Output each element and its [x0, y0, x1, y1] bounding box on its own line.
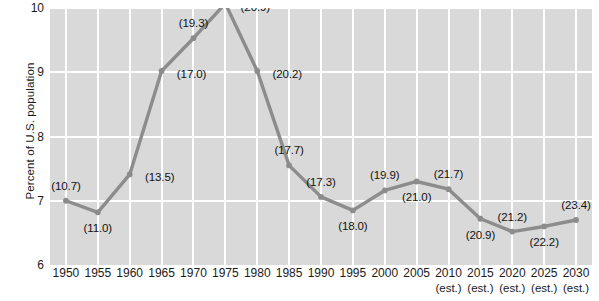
x-axis-tick-label: 1995	[340, 266, 367, 281]
x-axis-tick-year: 2000	[371, 266, 398, 280]
data-point-marker	[541, 224, 547, 230]
x-axis-tick-year: 2015	[467, 266, 494, 280]
data-point-marker	[414, 179, 420, 185]
x-axis-tick-label: 2020(est.)	[499, 266, 526, 296]
data-point-label: (21.0)	[402, 191, 431, 203]
data-point-marker	[159, 68, 165, 74]
data-point-label: (19.3)	[179, 17, 208, 29]
x-axis-tick-estimate-note: (est.)	[499, 281, 526, 296]
x-axis-tick-year: 1970	[180, 266, 207, 280]
x-axis-tick-label: 2030(est.)	[563, 266, 590, 296]
x-axis-tick-label: 1970	[180, 266, 207, 281]
x-axis-tick-year: 2025	[531, 266, 558, 280]
data-point-marker	[478, 216, 484, 222]
data-point-marker	[95, 209, 101, 215]
x-axis-tick-year: 1955	[84, 266, 111, 280]
x-axis-tick-label: 1980	[244, 266, 271, 281]
data-point-marker	[382, 188, 388, 194]
data-point-label: (20.9)	[466, 229, 495, 241]
x-axis-tick-year: 1980	[244, 266, 271, 280]
x-axis-tick-year: 1990	[308, 266, 335, 280]
x-axis-tick-estimate-note: (est.)	[531, 281, 558, 296]
data-point-label: (10.7)	[51, 180, 80, 192]
y-axis-tick-label: 6	[4, 258, 44, 272]
data-point-marker	[509, 229, 515, 235]
x-axis-tick-label: 1975	[212, 266, 239, 281]
x-axis-tick-year: 1960	[116, 266, 143, 280]
data-point-label: (13.5)	[145, 171, 174, 183]
x-axis-tick-year: 2030	[563, 266, 590, 280]
data-point-marker	[446, 186, 452, 192]
data-point-label: (20.2)	[273, 68, 302, 80]
x-axis-tick-estimate-note: (est.)	[435, 281, 462, 296]
data-point-label: (17.3)	[306, 176, 335, 188]
x-axis-tick-year: 1965	[148, 266, 175, 280]
x-axis-tick-year: 2020	[499, 266, 526, 280]
x-axis-tick-label: 1990	[308, 266, 335, 281]
x-axis-tick-year: 1995	[340, 266, 367, 280]
x-axis-tick-year: 1950	[53, 266, 80, 280]
x-axis-tick-labels: 1950195519601965197019751980198519901995…	[50, 266, 592, 301]
data-point-label: (11.0)	[84, 222, 113, 234]
chart-figure: Percent of U.S. population 678910 (10.7)…	[0, 0, 599, 301]
x-axis-tick-estimate-note: (est.)	[563, 281, 590, 296]
data-point-label: (21.7)	[434, 168, 463, 180]
y-axis-tick-label: 10	[4, 1, 44, 15]
y-axis-tick-label: 8	[4, 130, 44, 144]
data-point-label: (22.2)	[529, 236, 558, 248]
x-axis-tick-year: 2010	[435, 266, 462, 280]
data-point-label: (19.9)	[370, 169, 399, 181]
x-axis-tick-label: 2025(est.)	[531, 266, 558, 296]
data-point-label: (17.7)	[274, 144, 303, 156]
data-point-marker	[318, 194, 324, 200]
x-axis-tick-year: 1985	[276, 266, 303, 280]
data-point-marker	[191, 35, 197, 41]
plot-area: (10.7)(11.0)(13.5)(17.0)(19.3)(20.9)(20.…	[50, 8, 592, 265]
data-point-marker	[286, 163, 292, 169]
data-point-label: (18.0)	[338, 220, 367, 232]
x-axis-tick-estimate-note: (est.)	[467, 281, 494, 296]
data-point-label: (23.4)	[561, 199, 590, 211]
x-axis-tick-label: 2000	[371, 266, 398, 281]
x-axis-tick-label: 2015(est.)	[467, 266, 494, 296]
data-point-label: (20.9)	[241, 8, 270, 13]
x-axis-tick-label: 1985	[276, 266, 303, 281]
x-axis-tick-label: 1950	[53, 266, 80, 281]
data-point-label: (17.0)	[177, 68, 206, 80]
data-point-marker	[350, 207, 356, 213]
x-axis-tick-year: 2005	[403, 266, 430, 280]
data-point-marker	[573, 217, 579, 223]
x-axis-tick-label: 1955	[84, 266, 111, 281]
y-axis-tick-label: 7	[4, 194, 44, 208]
x-axis-tick-label: 2005	[403, 266, 430, 281]
data-point-marker	[63, 198, 69, 204]
x-axis-tick-label: 1965	[148, 266, 175, 281]
x-axis-tick-label: 2010(est.)	[435, 266, 462, 296]
series-line	[50, 8, 592, 265]
x-axis-tick-label: 1960	[116, 266, 143, 281]
data-point-label: (21.2)	[498, 211, 527, 223]
data-point-marker	[254, 68, 260, 74]
y-axis-tick-label: 9	[4, 65, 44, 79]
x-axis-tick-year: 1975	[212, 266, 239, 280]
data-point-marker	[127, 172, 133, 178]
y-axis-tick-labels: 678910	[0, 0, 44, 301]
